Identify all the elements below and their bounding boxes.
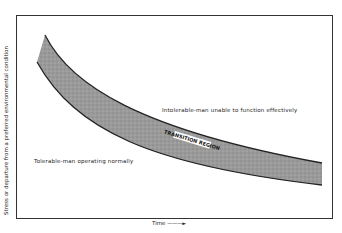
upper-region-label: Intolerable-man unable to function effec… — [162, 107, 297, 113]
x-axis-label: Time ———► — [152, 220, 186, 226]
y-axis-label: Stress or departure from a preferred env… — [3, 46, 9, 215]
transition-band: TRANSITION REGION — [0, 0, 342, 233]
x-axis-text: Time — [152, 220, 165, 226]
arrow-right-icon: ———► — [167, 220, 186, 226]
lower-region-label: Tolerable-man operating normally — [34, 158, 133, 164]
